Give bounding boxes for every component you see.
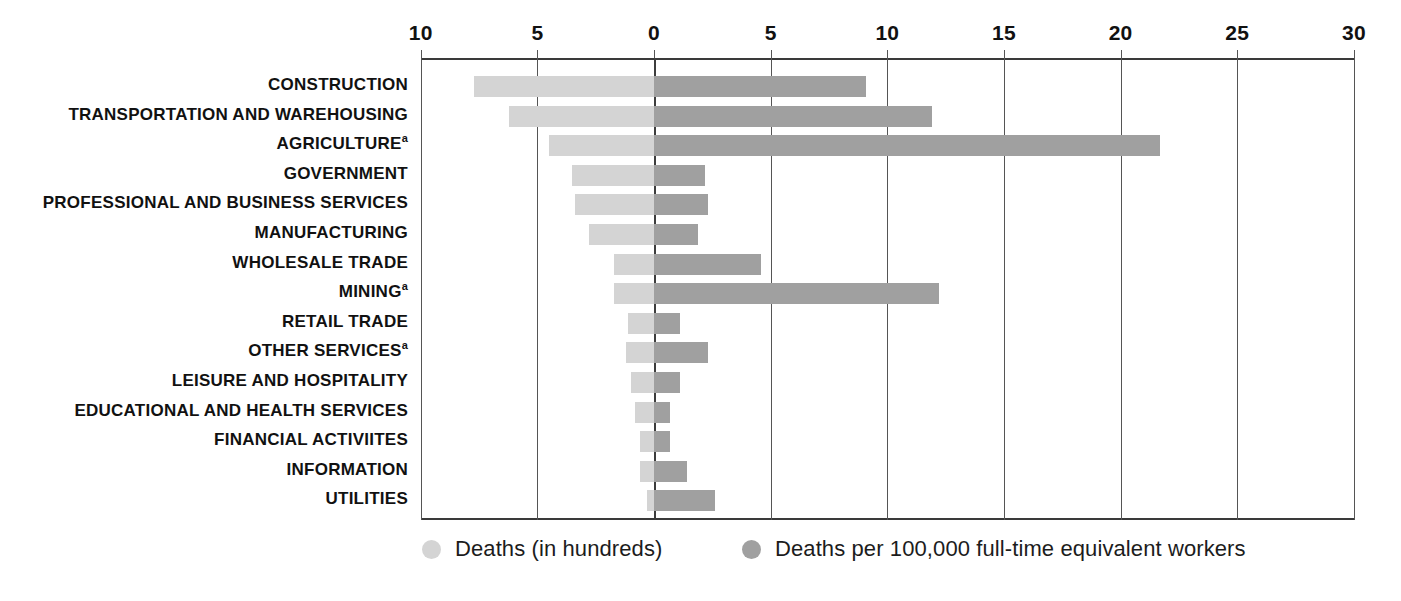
bar-left-series bbox=[614, 283, 654, 304]
bar-right-series bbox=[654, 313, 680, 334]
x-tick-label: 15 bbox=[992, 21, 1016, 45]
category-label: MANUFACTURING bbox=[0, 223, 408, 243]
plot-area bbox=[422, 58, 1354, 520]
gridline bbox=[1354, 58, 1355, 520]
category-label-text: AGRICULTURE bbox=[276, 134, 401, 153]
category-label-text: TRANSPORTATION AND WAREHOUSING bbox=[68, 105, 408, 124]
category-label-text: INFORMATION bbox=[287, 460, 408, 479]
category-label-text: WHOLESALE TRADE bbox=[232, 253, 408, 272]
category-label: RETAIL TRADE bbox=[0, 312, 408, 332]
category-label: UTILITIES bbox=[0, 489, 408, 509]
x-tick-label: 0 bbox=[648, 21, 660, 45]
category-label-text: MINING bbox=[339, 282, 402, 301]
gridline bbox=[421, 58, 422, 520]
bar-left-series bbox=[626, 342, 654, 363]
category-label-text: CONSTRUCTION bbox=[268, 75, 408, 94]
bar-left-series bbox=[474, 76, 654, 97]
legend-item[interactable]: Deaths (in hundreds) bbox=[422, 536, 662, 562]
bar-right-series bbox=[654, 254, 761, 275]
category-footnote-marker: a bbox=[402, 133, 408, 145]
bar-left-series bbox=[575, 194, 654, 215]
axis-tick-mark bbox=[1121, 50, 1122, 58]
bar-left-series bbox=[647, 490, 654, 511]
category-label: INFORMATION bbox=[0, 460, 408, 480]
bar-left-series bbox=[572, 165, 654, 186]
gridline bbox=[1004, 58, 1005, 520]
gridline bbox=[537, 58, 538, 520]
bar-right-series bbox=[654, 372, 680, 393]
legend-swatch-icon bbox=[422, 540, 441, 559]
x-tick-label: 30 bbox=[1342, 21, 1366, 45]
category-label: AGRICULTUREa bbox=[0, 134, 408, 154]
category-label-text: GOVERNMENT bbox=[284, 164, 408, 183]
chart-legend: Deaths (in hundreds)Deaths per 100,000 f… bbox=[422, 536, 1354, 576]
gridline bbox=[1237, 58, 1238, 520]
category-label-text: FINANCIAL ACTIVIITES bbox=[214, 430, 408, 449]
bar-right-series bbox=[654, 194, 708, 215]
bar-left-series bbox=[589, 224, 654, 245]
bar-right-series bbox=[654, 224, 698, 245]
gridline bbox=[1121, 58, 1122, 520]
axis-tick-mark bbox=[887, 50, 888, 58]
bar-right-series bbox=[654, 461, 687, 482]
axis-tick-mark bbox=[1237, 50, 1238, 58]
category-label-text: MANUFACTURING bbox=[255, 223, 408, 242]
category-footnote-marker: a bbox=[402, 281, 408, 293]
x-tick-label: 10 bbox=[875, 21, 899, 45]
category-label: MININGa bbox=[0, 282, 408, 302]
category-label-text: LEISURE AND HOSPITALITY bbox=[172, 371, 408, 390]
category-label: PROFESSIONAL AND BUSINESS SERVICES bbox=[0, 193, 408, 213]
bar-right-series bbox=[654, 342, 708, 363]
bar-right-series bbox=[654, 106, 932, 127]
bar-right-series bbox=[654, 283, 939, 304]
bar-right-series bbox=[654, 431, 670, 452]
category-label: FINANCIAL ACTIVIITES bbox=[0, 430, 408, 450]
category-label-text: OTHER SERVICES bbox=[248, 341, 401, 360]
category-label: CONSTRUCTION bbox=[0, 75, 408, 95]
category-footnote-marker: a bbox=[402, 340, 408, 352]
category-label-text: PROFESSIONAL AND BUSINESS SERVICES bbox=[43, 193, 408, 212]
x-tick-label: 5 bbox=[531, 21, 543, 45]
category-label-text: UTILITIES bbox=[325, 489, 408, 508]
bar-left-series bbox=[549, 135, 654, 156]
axis-tick-mark bbox=[421, 50, 422, 58]
category-label: EDUCATIONAL AND HEALTH SERVICES bbox=[0, 401, 408, 421]
category-label-text: RETAIL TRADE bbox=[282, 312, 408, 331]
bar-left-series bbox=[640, 461, 654, 482]
axis-tick-mark bbox=[654, 50, 655, 58]
x-tick-label: 5 bbox=[765, 21, 777, 45]
bar-left-series bbox=[640, 431, 654, 452]
chart-container: 105051015202530 CONSTRUCTIONTRANSPORTATI… bbox=[0, 0, 1401, 601]
axis-tick-mark bbox=[1004, 50, 1005, 58]
category-label: OTHER SERVICESa bbox=[0, 341, 408, 361]
bar-left-series bbox=[631, 372, 654, 393]
bar-right-series bbox=[654, 165, 705, 186]
bar-right-series bbox=[654, 135, 1160, 156]
bar-left-series bbox=[614, 254, 654, 275]
category-label-text: EDUCATIONAL AND HEALTH SERVICES bbox=[74, 401, 408, 420]
bar-right-series bbox=[654, 402, 670, 423]
axis-tick-mark bbox=[1354, 50, 1355, 58]
bar-left-series bbox=[509, 106, 654, 127]
category-label: LEISURE AND HOSPITALITY bbox=[0, 371, 408, 391]
category-label: TRANSPORTATION AND WAREHOUSING bbox=[0, 105, 408, 125]
bar-right-series bbox=[654, 76, 866, 97]
category-label: GOVERNMENT bbox=[0, 164, 408, 184]
x-tick-label: 25 bbox=[1225, 21, 1249, 45]
legend-label: Deaths (in hundreds) bbox=[455, 536, 662, 562]
legend-swatch-icon bbox=[742, 540, 761, 559]
legend-label: Deaths per 100,000 full-time equivalent … bbox=[775, 536, 1246, 562]
x-tick-label: 20 bbox=[1109, 21, 1133, 45]
legend-item[interactable]: Deaths per 100,000 full-time equivalent … bbox=[742, 536, 1246, 562]
x-tick-label: 10 bbox=[409, 21, 433, 45]
bar-left-series bbox=[635, 402, 654, 423]
category-label: WHOLESALE TRADE bbox=[0, 253, 408, 273]
axis-tick-mark bbox=[771, 50, 772, 58]
bar-right-series bbox=[654, 490, 715, 511]
bar-left-series bbox=[628, 313, 654, 334]
axis-tick-mark bbox=[537, 50, 538, 58]
